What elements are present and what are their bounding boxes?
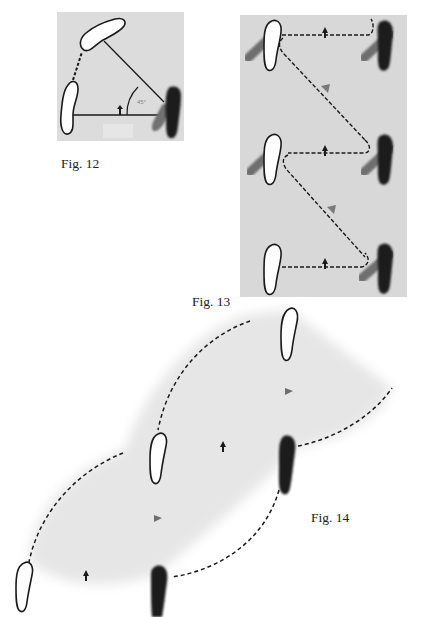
figure-13 xyxy=(240,15,407,297)
angle-label: 45° xyxy=(137,99,147,105)
fig13-caption: Fig. 13 xyxy=(192,294,231,309)
fig14-caption: Fig. 14 xyxy=(311,510,350,525)
figure-12: 45° xyxy=(57,12,184,141)
figure-14 xyxy=(16,308,392,617)
black-foot xyxy=(279,436,296,495)
page-illustrations: 45° Fig. 12 xyxy=(0,0,421,617)
shaded-sector xyxy=(28,310,392,584)
fig12-panel xyxy=(57,12,184,141)
fig12-caption: Fig. 12 xyxy=(61,156,99,171)
